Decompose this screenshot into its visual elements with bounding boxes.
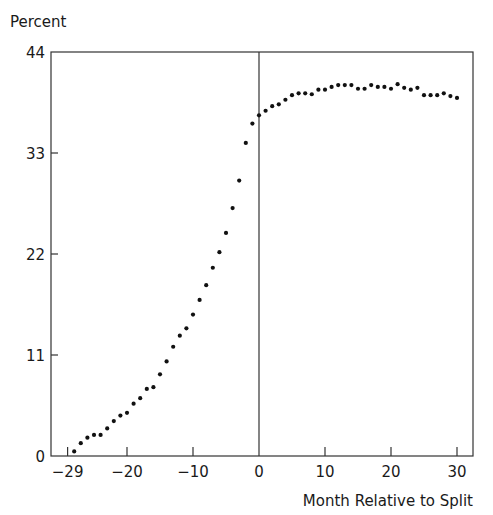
x-tick-label: −10 [177, 463, 209, 481]
data-point [343, 83, 347, 87]
data-point [389, 87, 393, 91]
data-point [244, 141, 248, 145]
data-point [270, 104, 274, 108]
plot-frame [51, 52, 473, 456]
data-point [442, 91, 446, 95]
y-axis: 011223344 [26, 44, 58, 466]
data-points [72, 82, 459, 453]
data-point [231, 206, 235, 210]
data-point [211, 266, 215, 270]
data-point [224, 231, 228, 235]
data-point [237, 178, 241, 182]
y-tick-label: 11 [26, 347, 45, 365]
data-point [409, 88, 413, 92]
data-point [198, 298, 202, 302]
data-point [455, 96, 459, 100]
data-point [402, 86, 406, 90]
data-point [382, 85, 386, 89]
data-point [363, 87, 367, 91]
x-tick-label: −29 [52, 463, 84, 481]
data-point [310, 92, 314, 96]
data-point [85, 436, 89, 440]
x-axis-label: Month Relative to Split [303, 492, 473, 510]
data-point [330, 85, 334, 89]
data-point [145, 387, 149, 391]
data-point [171, 345, 175, 349]
data-point [369, 83, 373, 87]
data-point [283, 98, 287, 102]
y-tick-label: 22 [26, 246, 45, 264]
x-tick-label: 10 [315, 463, 334, 481]
data-point [204, 283, 208, 287]
data-point [277, 102, 281, 106]
data-point [132, 402, 136, 406]
data-point [92, 433, 96, 437]
data-point [316, 88, 320, 92]
y-tick-label: 33 [26, 145, 45, 163]
data-point [118, 414, 122, 418]
data-point [303, 91, 307, 95]
data-point [336, 83, 340, 87]
data-point [257, 113, 261, 117]
data-point [396, 82, 400, 86]
data-point [376, 85, 380, 89]
data-point [184, 326, 188, 330]
data-point [435, 93, 439, 97]
data-point [323, 88, 327, 92]
data-point [422, 93, 426, 97]
data-point [112, 419, 116, 423]
data-point [264, 109, 268, 113]
data-point [191, 313, 195, 317]
data-point [429, 93, 433, 97]
data-point [217, 250, 221, 254]
data-point [349, 83, 353, 87]
x-tick-label: −20 [111, 463, 143, 481]
data-point [105, 426, 109, 430]
data-point [79, 441, 83, 445]
y-axis-label: Percent [10, 13, 67, 31]
data-point [415, 86, 419, 90]
data-point [158, 372, 162, 376]
y-tick-label: 44 [26, 44, 45, 62]
data-point [290, 93, 294, 97]
data-point [165, 359, 169, 363]
data-point [125, 411, 129, 415]
data-point [151, 385, 155, 389]
x-tick-label: 0 [254, 463, 264, 481]
x-tick-label: 30 [447, 463, 466, 481]
y-tick-label: 0 [35, 448, 45, 466]
data-point [297, 91, 301, 95]
scatter-chart: Percent 011223344 −29−20−100102030 Month… [0, 0, 493, 515]
x-tick-label: 20 [381, 463, 400, 481]
data-point [178, 334, 182, 338]
data-point [448, 94, 452, 98]
data-point [72, 449, 76, 453]
data-point [99, 433, 103, 437]
data-point [138, 396, 142, 400]
data-point [356, 87, 360, 91]
data-point [250, 122, 254, 126]
